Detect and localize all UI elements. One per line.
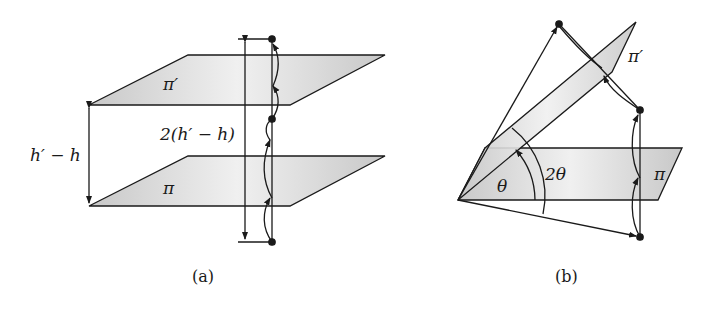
label-pi-prime-a: π′	[162, 74, 178, 94]
label-pi-prime-b: π′	[627, 46, 643, 66]
label-double-gap: 2(h′ − h)	[159, 124, 235, 144]
caption-b: (b)	[555, 267, 578, 286]
label-gap: h′ − h	[30, 145, 81, 165]
point-middle-b	[637, 107, 643, 113]
figure-a	[89, 36, 385, 245]
figure-b	[458, 21, 682, 240]
caption-a: (a)	[192, 267, 214, 286]
label-pi-b: π	[653, 164, 666, 184]
label-pi-a: π	[162, 178, 175, 198]
point-top	[269, 36, 275, 42]
point-middle	[269, 116, 275, 122]
point-top-b	[556, 21, 562, 27]
point-bottom	[269, 239, 275, 245]
diagram-canvas: π′ π h′ − h 2(h′ − h) (a) π′ π θ 2θ (b)	[0, 0, 708, 310]
plane-lower	[89, 156, 385, 206]
plane-upper	[89, 55, 385, 105]
point-bottom-b	[637, 234, 643, 240]
label-theta: θ	[497, 176, 507, 196]
label-two-theta: 2θ	[544, 164, 566, 184]
